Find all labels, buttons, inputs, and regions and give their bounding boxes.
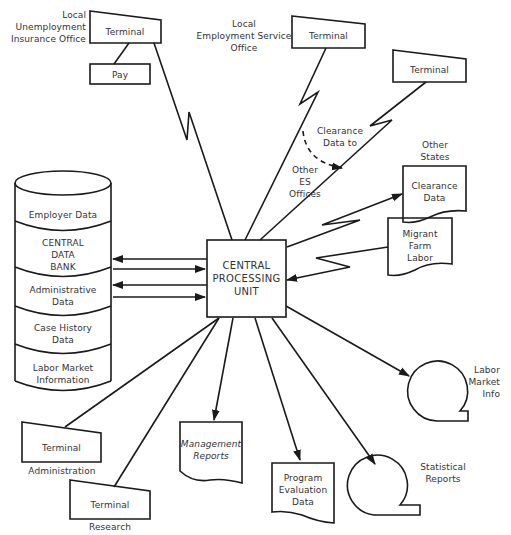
other-states-annotation: Other States: [410, 139, 460, 163]
data-bank-cylinder: [15, 171, 111, 391]
administration-caption: Administration: [22, 465, 102, 477]
clearance-document-label[interactable]: Clearance Data: [403, 180, 466, 204]
link-cpu-management: [214, 318, 233, 420]
labor-market-tape-label[interactable]: Labor Market Info: [450, 364, 500, 400]
employment-service-caption: Local Employment Service Office: [196, 18, 292, 54]
bank-segment-central: CENTRAL DATA BANK: [15, 237, 111, 273]
statistical-tape-label[interactable]: Statistical Reports: [408, 461, 478, 485]
link-cpu-clearance: [287, 194, 402, 247]
research-caption: Research: [70, 521, 150, 533]
link-migrant-cpu: [287, 247, 388, 280]
terminal-administration-label[interactable]: Terminal: [22, 442, 101, 454]
cpu-label[interactable]: CENTRAL PROCESSING UNIT: [207, 259, 286, 298]
unemployment-office-caption: Local Unemployment Insurance Office: [0, 9, 86, 45]
link-cpu-labor-market: [286, 306, 409, 376]
bank-segment-labor-market: Labor Market Information: [15, 362, 111, 386]
program-document-label[interactable]: Program Evaluation Data: [272, 472, 334, 508]
terminal-unemployment-label[interactable]: Terminal: [92, 26, 158, 38]
terminal-research-label[interactable]: Terminal: [70, 499, 150, 511]
migrant-document-label[interactable]: Migrant Farm Labor: [388, 228, 452, 264]
terminal-es-label[interactable]: Terminal: [292, 30, 365, 42]
management-document-label[interactable]: Management Reports: [180, 438, 242, 462]
link-cpu-program: [255, 318, 300, 460]
link-cpu-statistical: [272, 318, 375, 464]
bank-segment-employer: Employer Data: [15, 209, 111, 221]
pay-box-label[interactable]: Pay: [90, 69, 150, 81]
bank-segment-administrative: Administrative Data: [15, 284, 111, 308]
link-unemployment-cpu: [154, 43, 232, 240]
terminal-other-es-label[interactable]: Terminal: [393, 64, 466, 76]
bank-segment-case-history: Case History Data: [15, 322, 111, 346]
clearance-data-to-annotation: Clearance Data to: [305, 125, 375, 149]
other-es-offices-annotation: Other ES Offices: [280, 164, 330, 200]
pay-link: [114, 43, 129, 64]
